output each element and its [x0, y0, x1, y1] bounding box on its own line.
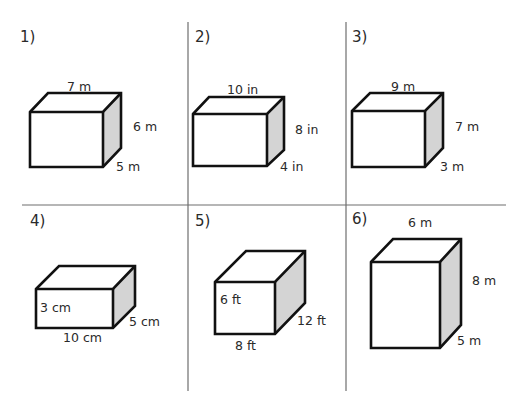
problem-6: 6) 6 m 8 m 5 m	[352, 210, 496, 348]
problem-2: 2) 10 in 8 in 4 in	[193, 28, 318, 174]
problem-number: 2)	[195, 28, 210, 46]
prism-figure	[193, 97, 284, 166]
height-label: 8 in	[295, 122, 318, 137]
length-label: 10 cm	[63, 330, 102, 345]
problem-4: 4) 3 cm 10 cm 5 cm	[30, 212, 160, 345]
problem-number: 6)	[352, 210, 367, 228]
length-label: 9 m	[391, 79, 415, 94]
worksheet: 1) 7 m 6 m 5 m 2) 10 in 8 in 4 in 3)	[0, 0, 524, 406]
problem-number: 1)	[20, 28, 35, 46]
problem-number: 4)	[30, 212, 45, 230]
problem-number: 3)	[352, 28, 367, 46]
prism-figure	[352, 93, 443, 167]
depth-label: 5 m	[116, 159, 140, 174]
length-label: 10 in	[227, 82, 258, 97]
height-label: 7 m	[455, 119, 479, 134]
depth-label: 4 in	[280, 159, 303, 174]
depth-label: 12 ft	[297, 313, 326, 328]
prism-figure	[30, 93, 121, 167]
height-label: 8 m	[472, 273, 496, 288]
problem-1: 1) 7 m 6 m 5 m	[20, 28, 157, 174]
depth-label: 5 m	[457, 333, 481, 348]
prism-figure	[36, 266, 135, 328]
height-label: 6 ft	[220, 292, 241, 307]
length-label: 7 m	[67, 79, 91, 94]
prism-figure	[371, 239, 461, 348]
height-label: 6 m	[133, 119, 157, 134]
depth-label: 3 m	[440, 159, 464, 174]
length-label: 8 ft	[235, 338, 256, 353]
problem-5: 5) 6 ft 8 ft 12 ft	[195, 212, 326, 353]
problem-number: 5)	[195, 212, 210, 230]
depth-label: 5 cm	[129, 314, 160, 329]
length-label: 6 m	[408, 215, 432, 230]
height-label: 3 cm	[40, 300, 71, 315]
problem-3: 3) 9 m 7 m 3 m	[352, 28, 479, 174]
